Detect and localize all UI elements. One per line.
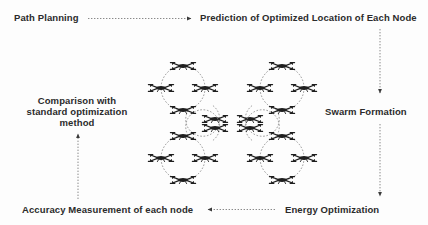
drone-icon xyxy=(269,132,294,139)
swarm-cluster-bottom-left xyxy=(148,110,227,184)
drone-icon xyxy=(192,154,217,161)
drone-icon xyxy=(148,154,173,161)
drone-icon xyxy=(192,84,217,91)
drone-icon xyxy=(148,84,173,91)
drone-icon xyxy=(269,106,294,113)
node-label-accuracy-measurement: Accuracy Measurement of each node xyxy=(22,204,193,215)
node-label-path-planning: Path Planning xyxy=(14,12,79,23)
node-label-energy-optimization: Energy Optimization xyxy=(285,204,379,215)
drone-icon xyxy=(170,62,195,69)
drone-icon xyxy=(202,115,227,122)
swarm-cluster-top-right xyxy=(237,62,316,136)
drone-icon xyxy=(269,62,294,69)
drone-icon xyxy=(237,115,262,122)
swarm-cluster-top-left xyxy=(148,62,227,136)
drone-icon xyxy=(170,106,195,113)
drone-icon xyxy=(237,124,262,131)
drone-icon xyxy=(247,154,272,161)
drone-icon xyxy=(170,132,195,139)
swarm-cluster-bottom-right xyxy=(237,110,316,184)
drone-icon xyxy=(247,84,272,91)
drone-icon xyxy=(291,84,316,91)
drone-icon xyxy=(291,154,316,161)
drone-icon xyxy=(202,124,227,131)
node-label-comparison: Comparison with standard optimization me… xyxy=(18,95,136,128)
node-label-swarm-formation: Swarm Formation xyxy=(325,106,407,117)
drone-icon xyxy=(269,176,294,183)
drone-icon xyxy=(170,176,195,183)
node-label-prediction: Prediction of Optimized Location of Each… xyxy=(200,12,417,23)
workflow-diagram: Path Planning Prediction of Optimized Lo… xyxy=(0,0,428,225)
